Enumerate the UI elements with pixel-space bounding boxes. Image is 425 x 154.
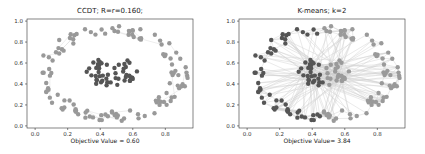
y-tick-label: 1.0 bbox=[14, 18, 23, 24]
data-points bbox=[40, 24, 189, 123]
x-tick-label: 0.8 bbox=[161, 131, 170, 137]
chart-ccdt: CCDT; R=r=0.160;0.00.20.40.60.81.00.00.2… bbox=[0, 0, 212, 154]
chart-kmeans: K-means; k=20.00.20.40.60.81.00.00.20.40… bbox=[212, 0, 425, 154]
y-tick-label: 0.0 bbox=[226, 123, 235, 129]
y-tick-label: 0.4 bbox=[226, 81, 235, 87]
y-tick-label: 0.8 bbox=[226, 39, 235, 45]
y-tick-label: 0.4 bbox=[14, 81, 23, 87]
x-tick-label: 0.8 bbox=[373, 131, 382, 137]
y-tick-label: 1.0 bbox=[226, 18, 235, 24]
x-tick-label: 0.0 bbox=[31, 131, 40, 137]
y-tick-label: 0.8 bbox=[14, 39, 23, 45]
y-tick-label: 0.0 bbox=[14, 123, 23, 129]
chart-title: CCDT; R=r=0.160; bbox=[77, 7, 143, 15]
x-axis-label: Objective Value = 0.60 bbox=[70, 137, 139, 145]
chart-title: K-means; k=2 bbox=[298, 7, 347, 15]
y-tick-label: 0.6 bbox=[14, 60, 23, 66]
y-tick-label: 0.2 bbox=[14, 102, 23, 108]
y-tick-label: 0.6 bbox=[226, 60, 235, 66]
x-axis-label: Objective Value= 3.84 bbox=[283, 137, 350, 145]
y-tick-label: 0.2 bbox=[226, 102, 235, 108]
ccdt-scatter-plot: CCDT; R=r=0.160;0.00.20.40.60.81.00.00.2… bbox=[0, 0, 212, 154]
x-tick-label: 0.0 bbox=[243, 131, 252, 137]
kmeans-scatter-plot: K-means; k=20.00.20.40.60.81.00.00.20.40… bbox=[212, 0, 425, 154]
